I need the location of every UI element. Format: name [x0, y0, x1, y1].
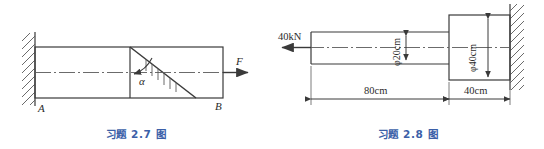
label-angle-alpha: α — [139, 75, 145, 87]
dimension-diameter-large: φ40cm — [467, 19, 488, 77]
label-support-a: A — [37, 102, 45, 114]
figure-2-8: 40kN φ20cm φ40cm 80cm — [272, 0, 544, 149]
dimension-length-large: 40cm — [449, 85, 510, 99]
fixed-support-wall-left — [18, 27, 36, 125]
section-hatch-marks — [146, 59, 176, 92]
bar-segment-small — [311, 32, 449, 64]
dimension-length-small: 80cm — [311, 85, 449, 99]
angle-arc-alpha — [134, 58, 152, 74]
label-diameter-large: φ40cm — [467, 44, 478, 72]
figure-2-7: A B F α 习题 2.7 图 — [0, 0, 272, 149]
label-length-small: 80cm — [364, 85, 387, 96]
label-length-large: 40cm — [464, 85, 487, 96]
figure-2-7-drawing: A B F α — [0, 0, 272, 125]
figure-2-7-caption: 习题 2.7 图 — [0, 126, 272, 141]
label-force-f: F — [235, 55, 243, 67]
fixed-support-wall-right — [509, 0, 527, 100]
figure-sheet: A B F α 习题 2.7 图 — [0, 0, 544, 149]
label-load-40kn: 40kN — [278, 31, 302, 42]
figure-2-8-drawing: 40kN φ20cm φ40cm 80cm — [272, 0, 544, 125]
figure-2-8-caption: 习题 2.8 图 — [272, 126, 544, 141]
dimension-diameter-small: φ20cm — [391, 36, 406, 66]
label-diameter-small: φ20cm — [391, 38, 402, 66]
label-free-end-b: B — [215, 100, 222, 112]
